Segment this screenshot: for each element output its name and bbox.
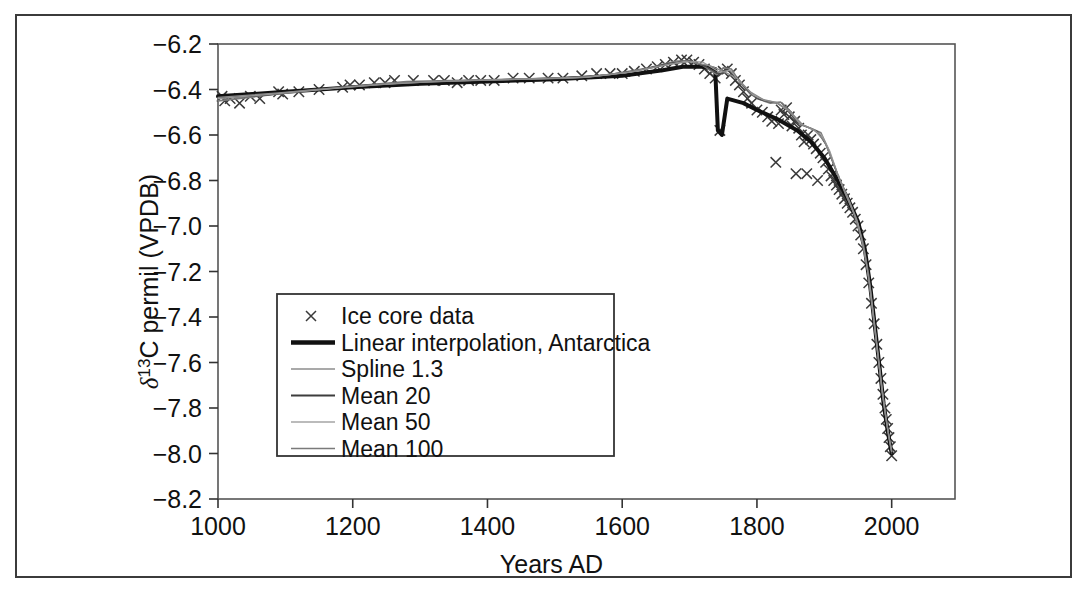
y-tick-label: −8.0 <box>153 440 202 468</box>
y-tick-label: −6.4 <box>153 76 202 104</box>
y-tick-label: −7.8 <box>153 394 202 422</box>
x-tick-label: 1000 <box>190 512 246 540</box>
legend-item-label: Ice core data <box>341 303 474 329</box>
y-axis-title: δ13C permil (VPDB) <box>135 174 163 389</box>
x-tick-label: 1400 <box>460 512 516 540</box>
legend-item[interactable]: Linear interpolation, Antarctica <box>291 330 651 356</box>
legend-item-label: Spline 1.3 <box>341 356 443 382</box>
x-axis-title: Years AD <box>500 550 603 578</box>
y-tick-label: −6.2 <box>153 30 202 58</box>
x-tick-label: 1800 <box>729 512 785 540</box>
figure-root: −6.2−6.4−6.6−6.8−7.0−7.2−7.4−7.6−7.8−8.0… <box>0 0 1085 594</box>
x-tick-label: 2000 <box>864 512 920 540</box>
data-point-marker <box>812 175 822 185</box>
data-point-marker <box>791 168 801 178</box>
svg-text:δ13C permil (VPDB): δ13C permil (VPDB) <box>135 174 163 389</box>
legend-item-label: Mean 100 <box>341 436 443 462</box>
data-point-marker <box>802 168 812 178</box>
y-tick-label: −8.2 <box>153 485 202 513</box>
legend-item-label: Mean 50 <box>341 409 431 435</box>
x-tick-label: 1600 <box>594 512 650 540</box>
data-point-marker <box>771 157 781 167</box>
chart-canvas: −6.2−6.4−6.6−6.8−7.0−7.2−7.4−7.6−7.8−8.0… <box>0 0 1085 594</box>
y-tick-label: −6.6 <box>153 121 202 149</box>
legend-item-label: Linear interpolation, Antarctica <box>341 330 651 356</box>
legend-layer[interactable]: Ice core dataLinear interpolation, Antar… <box>277 294 651 462</box>
x-tick-label: 1200 <box>325 512 381 540</box>
legend-item-label: Mean 20 <box>341 383 431 409</box>
